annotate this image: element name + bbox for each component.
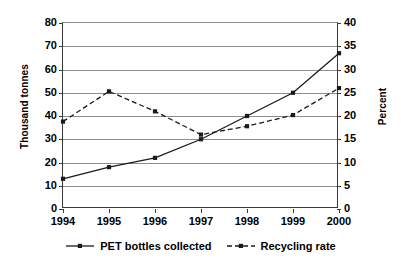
series-lines bbox=[63, 23, 339, 209]
y-axis-right-title: Percent bbox=[377, 37, 388, 177]
y-axis-right-tick-label: 10 bbox=[337, 157, 370, 168]
series-marker bbox=[153, 156, 157, 160]
legend-swatch-solid bbox=[65, 241, 95, 251]
y-axis-right-tick-label: 30 bbox=[337, 64, 370, 75]
series-marker bbox=[245, 124, 249, 128]
y-axis-right-tick-label: 0 bbox=[337, 203, 370, 214]
series-marker bbox=[153, 109, 157, 113]
y-axis-right-tick-label: 25 bbox=[337, 87, 370, 98]
series-line bbox=[63, 53, 339, 179]
legend-item[interactable]: Recycling rate bbox=[226, 240, 336, 252]
chart-legend: PET bottles collectedRecycling rate bbox=[0, 240, 401, 252]
legend-swatch-dashed bbox=[226, 241, 256, 251]
series-marker bbox=[245, 114, 249, 118]
series-marker bbox=[107, 165, 111, 169]
x-axis-tickmark bbox=[293, 209, 294, 213]
x-axis-tickmark bbox=[339, 209, 340, 213]
series-marker bbox=[61, 177, 65, 181]
y-axis-right-tick-label: 15 bbox=[337, 133, 370, 144]
legend-label: PET bottles collected bbox=[100, 240, 211, 252]
x-axis-tick-label: 2000 bbox=[317, 216, 361, 227]
series-marker bbox=[199, 133, 203, 137]
x-axis-tick-label: 1995 bbox=[87, 216, 131, 227]
series-marker bbox=[291, 113, 295, 117]
y-axis-right-tick-label: 40 bbox=[337, 17, 370, 28]
x-axis-tick-label: 1999 bbox=[271, 216, 315, 227]
x-axis-tick-label: 1996 bbox=[133, 216, 177, 227]
x-axis-tick-label: 1997 bbox=[179, 216, 223, 227]
x-axis-tickmark bbox=[201, 209, 202, 213]
series-line bbox=[63, 88, 339, 135]
series-marker bbox=[199, 137, 203, 141]
x-axis-tickmark bbox=[247, 209, 248, 213]
series-marker bbox=[61, 119, 65, 123]
y-axis-right-tick-label: 35 bbox=[337, 40, 370, 51]
plot-area: 80706050403020100 4035302520151050 19941… bbox=[62, 22, 338, 208]
x-axis-tick-label: 1994 bbox=[41, 216, 85, 227]
x-axis-tick-label: 1998 bbox=[225, 216, 269, 227]
legend-item[interactable]: PET bottles collected bbox=[65, 240, 211, 252]
legend-label: Recycling rate bbox=[261, 240, 336, 252]
y-axis-left-title: Thousand tonnes bbox=[19, 37, 30, 177]
chart-container: Thousand tonnes Percent 8070605040302010… bbox=[0, 0, 401, 271]
series-marker bbox=[337, 86, 341, 90]
x-axis-tickmark bbox=[155, 209, 156, 213]
series-marker bbox=[107, 89, 111, 93]
y-axis-right-tick-label: 5 bbox=[337, 180, 370, 191]
x-axis-tickmark bbox=[109, 209, 110, 213]
y-axis-right-tick-label: 20 bbox=[337, 110, 370, 121]
series-marker bbox=[291, 91, 295, 95]
series-marker bbox=[337, 51, 341, 55]
x-axis-tickmark bbox=[63, 209, 64, 213]
